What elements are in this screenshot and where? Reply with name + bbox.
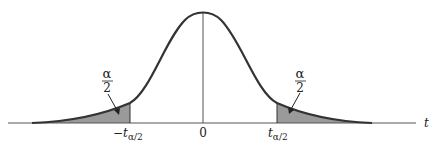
right-tail-shade	[277, 103, 372, 123]
t-axis-label: t	[424, 116, 429, 130]
right-area-arrow	[290, 93, 300, 111]
left-area-alpha: α	[103, 66, 112, 81]
left-cutoff-label: −tα/2	[113, 126, 143, 142]
density-curve	[32, 13, 372, 124]
right-area-two: 2	[296, 81, 304, 95]
left-tail-shade	[32, 103, 130, 123]
right-area-alpha: α	[296, 66, 305, 81]
t-distribution-diagram: α 2 α 2 −tα/2 0 tα/2 t	[0, 0, 432, 143]
right-cutoff-label: tα/2	[268, 126, 288, 142]
left-area-two: 2	[103, 81, 111, 95]
zero-label: 0	[199, 126, 207, 140]
